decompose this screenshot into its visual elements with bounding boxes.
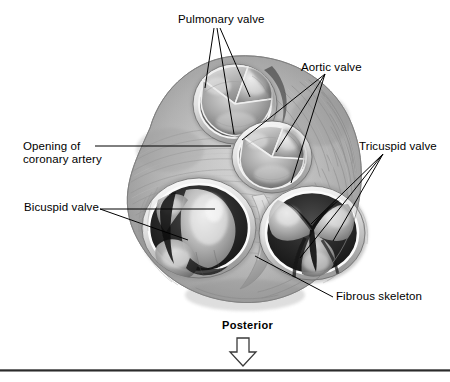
label-bicuspid-valve: Bicuspid valve: [24, 201, 99, 214]
aortic-valve-structure: [230, 119, 314, 195]
label-coronary-line-1: Opening of: [23, 140, 80, 152]
heart-valves-figure: Pulmonary valve Aortic valve Opening of …: [0, 0, 450, 382]
label-tricuspid-valve: Tricuspid valve: [359, 140, 437, 153]
tricuspid-valve-structure: [256, 183, 368, 283]
label-coronary-line-2: coronary artery: [23, 153, 102, 166]
label-coronary-artery-opening: Opening of coronary artery: [23, 140, 102, 166]
bottom-divider-rule: [0, 369, 450, 372]
label-fibrous-skeleton: Fibrous skeleton: [336, 290, 422, 303]
label-pulmonary-valve: Pulmonary valve: [178, 13, 265, 26]
label-aortic-valve: Aortic valve: [301, 61, 362, 74]
label-posterior-orientation: Posterior: [222, 319, 273, 332]
